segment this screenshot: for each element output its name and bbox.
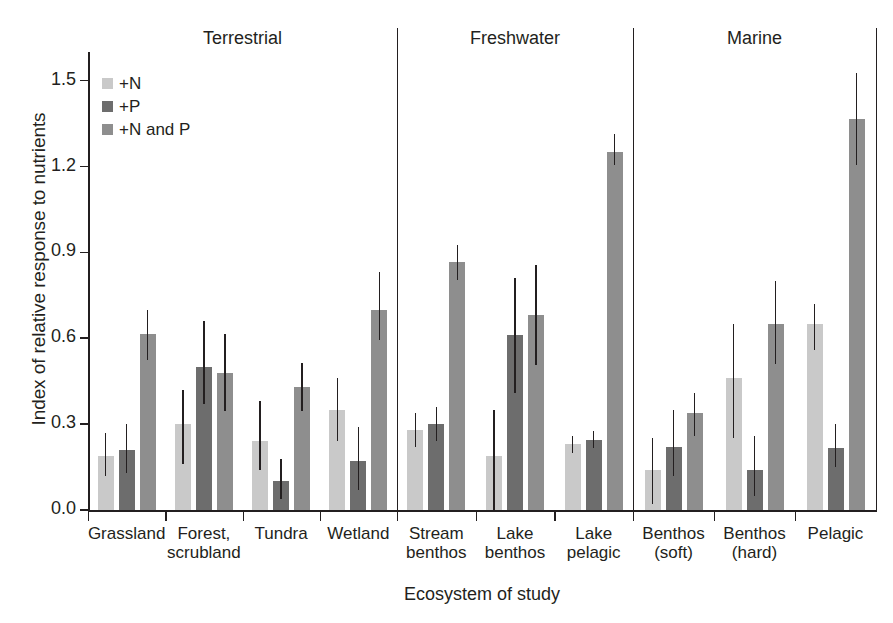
chart-figure: Index of relative response to nutrients … (0, 0, 893, 623)
category-tick (88, 510, 89, 521)
error-bar (754, 436, 756, 496)
bar (449, 262, 465, 510)
group-title-terrestrial: Terrestrial (88, 28, 397, 49)
legend-label: +P (119, 97, 140, 117)
category-tick (243, 510, 244, 521)
error-bar (358, 427, 360, 490)
group-separator (876, 28, 877, 510)
bar (807, 324, 823, 510)
group-title-freshwater: Freshwater (397, 28, 633, 49)
category-label: Pelagic (766, 524, 893, 543)
error-bar (259, 401, 261, 470)
error-bar (301, 363, 303, 412)
error-bar (514, 278, 516, 393)
error-bar (814, 304, 816, 350)
bar (140, 334, 156, 510)
error-bar (673, 410, 675, 476)
category-tick (320, 510, 321, 521)
legend-label: +N and P (119, 120, 190, 140)
error-bar (147, 310, 149, 360)
category-tick (795, 510, 796, 521)
x-axis-title: Ecosystem of study (88, 584, 876, 605)
category-tick (554, 510, 555, 521)
legend-swatch-icon (102, 101, 113, 112)
error-bar (535, 265, 537, 365)
error-bar (337, 378, 339, 441)
category-tick (633, 510, 634, 521)
legend-label: +N (119, 74, 141, 94)
y-tick-label: 1.2 (24, 155, 76, 176)
error-bar (572, 436, 574, 453)
error-bar (733, 324, 735, 439)
error-bar (856, 73, 858, 165)
error-bar (835, 424, 837, 467)
category-tick (476, 510, 477, 521)
plot-area (88, 52, 876, 510)
error-bar (415, 413, 417, 447)
y-tick-mark (80, 80, 88, 82)
bar (607, 152, 623, 510)
group-title-marine: Marine (633, 28, 876, 49)
y-tick-label: 0.0 (24, 498, 76, 519)
error-bar (457, 245, 459, 279)
error-bar (105, 433, 107, 476)
bar (849, 119, 865, 510)
y-tick-label: 0.3 (24, 412, 76, 433)
y-tick-label: 0.9 (24, 240, 76, 261)
error-bar (126, 424, 128, 473)
legend-swatch-icon (102, 124, 113, 135)
error-bar (280, 459, 282, 499)
legend-swatch-icon (102, 78, 113, 89)
error-bar (203, 321, 205, 404)
bar (565, 444, 581, 510)
y-tick-mark (80, 166, 88, 168)
error-bar (652, 438, 654, 504)
error-bar (379, 272, 381, 339)
legend-item-1: +N (102, 72, 190, 95)
y-tick-label: 1.5 (24, 69, 76, 90)
category-tick (397, 510, 398, 521)
y-tick-mark (80, 252, 88, 254)
error-bar (593, 431, 595, 448)
y-axis-title: Index of relative response to nutrients (28, 34, 50, 504)
error-bar (614, 134, 616, 165)
y-tick-mark (80, 509, 88, 511)
y-tick-mark (80, 423, 88, 425)
error-bar (493, 410, 495, 510)
error-bar (436, 407, 438, 441)
bar (586, 440, 602, 510)
x-axis-line (88, 510, 877, 512)
error-bar (694, 393, 696, 436)
error-bar (182, 390, 184, 464)
error-bar (775, 281, 777, 364)
y-tick-label: 0.6 (24, 326, 76, 347)
chart-legend: +N+P+N and P (102, 72, 190, 141)
legend-item-2: +P (102, 95, 190, 118)
y-tick-mark (80, 337, 88, 339)
category-tick (714, 510, 715, 521)
error-bar (224, 334, 226, 411)
legend-item-3: +N and P (102, 118, 190, 141)
category-tick (165, 510, 166, 521)
